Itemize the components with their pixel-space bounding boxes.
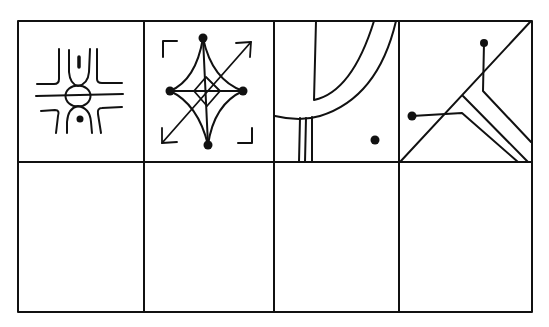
cell-8-empty[interactable]: [400, 163, 531, 311]
cell-3-symbol: [275, 21, 396, 162]
symbol-grid: Symbol grid puzzle: [0, 0, 549, 327]
cell-6-empty[interactable]: [145, 163, 273, 311]
cell-4-symbol: [400, 21, 531, 162]
cell-7-empty[interactable]: [275, 163, 398, 311]
cell-1-symbol: [36, 49, 123, 133]
cell-5-empty[interactable]: [19, 163, 143, 311]
cell-2-symbol: [162, 34, 252, 150]
